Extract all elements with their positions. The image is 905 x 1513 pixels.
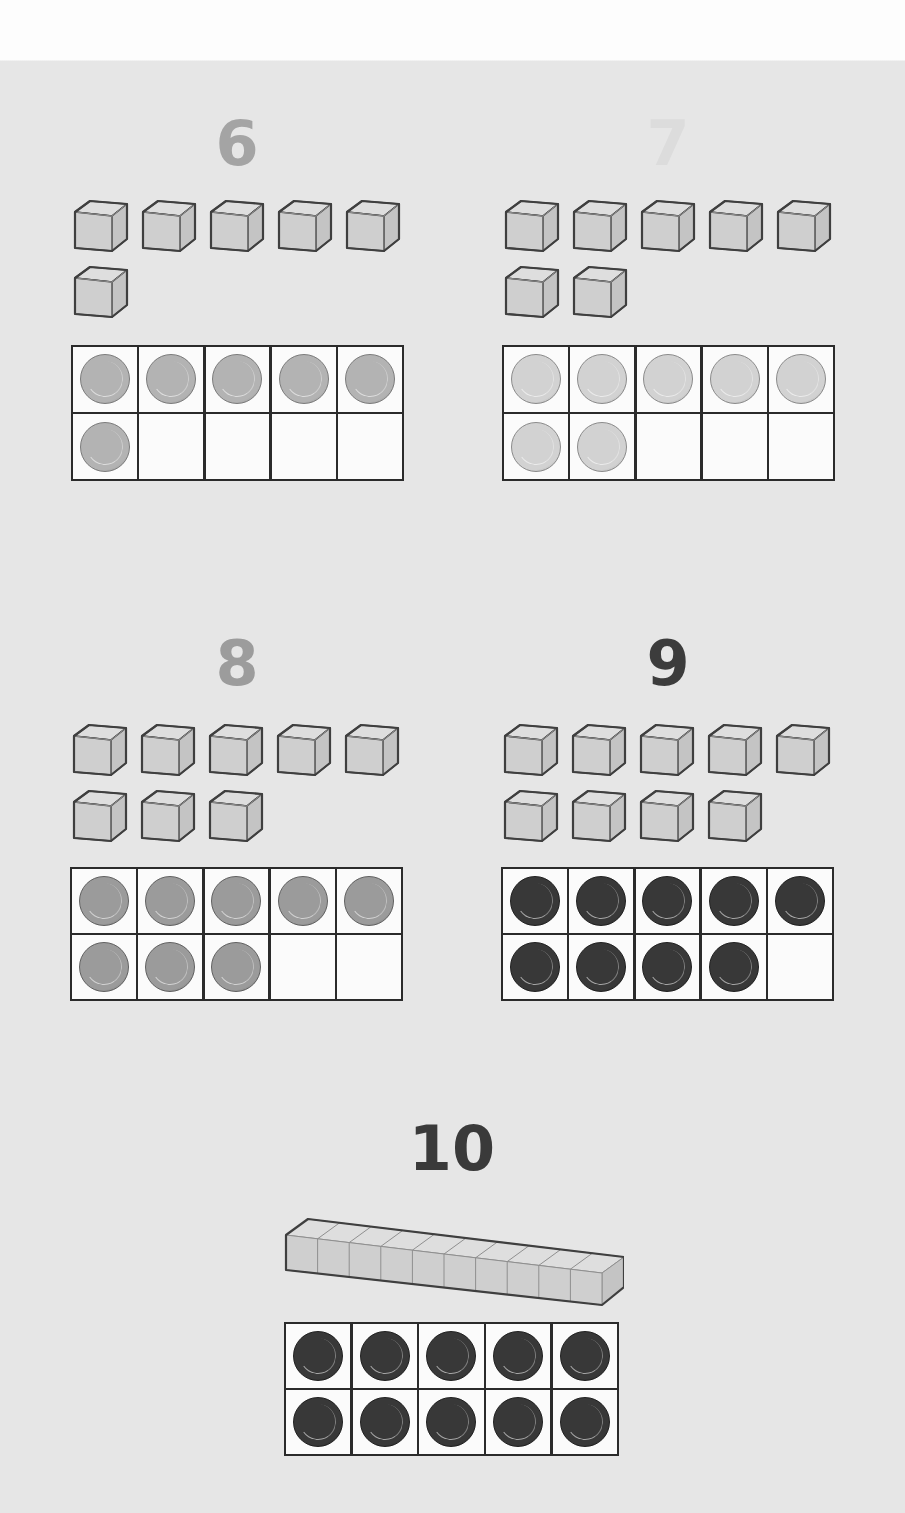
counter-icon	[293, 1397, 343, 1447]
counter-icon	[511, 422, 561, 472]
counter-icon	[426, 1331, 476, 1381]
cube-icon	[139, 722, 197, 780]
cube-icon	[774, 722, 832, 780]
counter-icon	[80, 422, 130, 472]
cube-icon	[775, 198, 833, 256]
cube-icon	[503, 198, 561, 256]
ten-frame-cell	[338, 414, 402, 479]
ten-frame-cell	[138, 935, 202, 999]
counter-icon	[79, 876, 129, 926]
cube-icon	[503, 264, 561, 322]
ten-frame	[70, 867, 403, 1001]
ten-frame-cell	[206, 414, 270, 479]
ten-frame-cell	[205, 869, 269, 933]
counter-icon	[145, 876, 195, 926]
cube-icon	[502, 788, 560, 846]
ten-frame-cell	[702, 869, 766, 933]
ten-frame-cell	[139, 414, 203, 479]
counter-icon	[80, 354, 130, 404]
counter-icon	[577, 422, 627, 472]
ten-frame-cell	[769, 347, 833, 412]
counter-icon	[642, 942, 692, 992]
numeral-label: 10	[392, 1118, 512, 1180]
cube-icon	[276, 198, 334, 256]
ten-frame-cell	[703, 414, 767, 479]
ten-frame-cell	[353, 1324, 417, 1388]
cube-icon	[71, 788, 129, 846]
ten-frame-cell	[337, 935, 401, 999]
cube-icon	[638, 788, 696, 846]
counter-icon	[511, 354, 561, 404]
counter-icon	[146, 354, 196, 404]
counter-icon	[345, 354, 395, 404]
counter-icon	[426, 1397, 476, 1447]
ten-frame-cell	[72, 869, 136, 933]
cube-icon	[706, 722, 764, 780]
ten-frame-cell	[504, 414, 568, 479]
ten-frame-cell	[702, 935, 766, 999]
ten-frame-cell	[503, 869, 567, 933]
counter-icon	[776, 354, 826, 404]
counter-icon	[775, 876, 825, 926]
ten-frame-cell	[504, 347, 568, 412]
ten-frame-cell	[206, 347, 270, 412]
cube-icon	[706, 788, 764, 846]
ten-frame-cell	[570, 347, 634, 412]
ten-frame-cell	[553, 1324, 617, 1388]
ten-frame-cell	[338, 347, 402, 412]
ten-frame-cell	[769, 414, 833, 479]
ten-frame	[501, 867, 834, 1001]
counter-icon	[79, 942, 129, 992]
ten-frame-cell	[337, 869, 401, 933]
counter-icon	[576, 876, 626, 926]
counter-icon	[360, 1397, 410, 1447]
cube-icon	[571, 198, 629, 256]
ten-frame-cell	[636, 869, 700, 933]
cube-icon	[71, 722, 129, 780]
counter-icon	[493, 1331, 543, 1381]
counter-icon	[278, 876, 328, 926]
counter-icon	[709, 876, 759, 926]
ten-frame-cell	[703, 347, 767, 412]
ten-frame-cell	[272, 347, 336, 412]
cube-icon	[140, 198, 198, 256]
ten-frame-cell	[636, 935, 700, 999]
counter-icon	[560, 1397, 610, 1447]
counter-icon	[510, 876, 560, 926]
ten-frame-cell	[271, 869, 335, 933]
ten-frame-cell	[486, 1390, 550, 1454]
ten-frame-cell	[72, 935, 136, 999]
numeral-label: 7	[608, 113, 728, 175]
ten-frame-cell	[419, 1324, 483, 1388]
cube-icon	[638, 722, 696, 780]
ten-frame-cell	[553, 1390, 617, 1454]
ten-frame-cell	[768, 935, 832, 999]
ten-frame-cell	[637, 347, 701, 412]
ten-frame-cell	[205, 935, 269, 999]
counter-icon	[493, 1397, 543, 1447]
cube-icon	[139, 788, 197, 846]
ten-frame-cell	[570, 414, 634, 479]
counter-icon	[642, 876, 692, 926]
numeral-label: 6	[177, 113, 297, 175]
ten-frame	[71, 345, 404, 481]
cube-icon	[707, 198, 765, 256]
numeral-label: 9	[608, 633, 728, 695]
ten-frame-cell	[486, 1324, 550, 1388]
ten-frame-cell	[637, 414, 701, 479]
numeral-label: 8	[177, 633, 297, 695]
cube-icon	[639, 198, 697, 256]
ten-frame-cell	[73, 347, 137, 412]
cube-icon	[343, 722, 401, 780]
ten-frame-cell	[286, 1324, 350, 1388]
counter-icon	[710, 354, 760, 404]
cube-icon	[570, 788, 628, 846]
ten-frame	[502, 345, 835, 481]
counter-icon	[360, 1331, 410, 1381]
counter-icon	[212, 354, 262, 404]
ten-frame-cell	[419, 1390, 483, 1454]
cube-icon	[570, 722, 628, 780]
counter-icon	[211, 876, 261, 926]
cube-icon	[502, 722, 560, 780]
cube-icon	[207, 722, 265, 780]
